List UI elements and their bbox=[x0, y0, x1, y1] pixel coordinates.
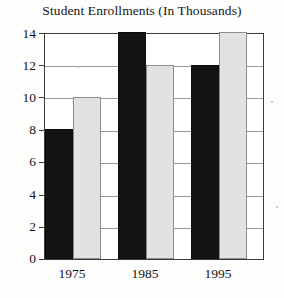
bar-1975-light bbox=[73, 97, 101, 259]
y-axis-label-6: 6 bbox=[6, 154, 36, 170]
y-axis-label-4: 4 bbox=[6, 187, 36, 203]
y-axis-label-8: 8 bbox=[6, 122, 36, 138]
y-axis-label-10: 10 bbox=[6, 90, 36, 106]
x-axis-label-1985: 1985 bbox=[110, 266, 180, 282]
bar-1985-light bbox=[146, 65, 174, 259]
chart-title: Student Enrollments (In Thousands) bbox=[0, 3, 284, 19]
y-axis-label-0: 0 bbox=[6, 251, 36, 267]
bar-1995-dark bbox=[191, 65, 219, 259]
y-axis-label-14: 14 bbox=[6, 26, 36, 42]
scan-speck bbox=[77, 66, 79, 68]
x-axis-label-1975: 1975 bbox=[37, 266, 107, 282]
x-axis-label-1995: 1995 bbox=[183, 266, 253, 282]
bar-1975-dark bbox=[45, 129, 73, 259]
bar-1995-light bbox=[219, 32, 247, 259]
plot-area bbox=[44, 33, 264, 260]
chart-page: Student Enrollments (In Thousands) 14 12… bbox=[0, 0, 284, 298]
scan-speck bbox=[276, 206, 278, 208]
bar-1985-dark bbox=[118, 32, 146, 259]
scan-speck bbox=[271, 101, 273, 103]
y-axis-label-12: 12 bbox=[6, 58, 36, 74]
y-axis-label-2: 2 bbox=[6, 219, 36, 235]
